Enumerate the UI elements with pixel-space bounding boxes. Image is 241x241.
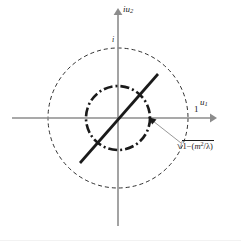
complex-plane-figure: iu2 u1 i 1 √1−(m2/λ) [0, 0, 241, 241]
y-axis-label-subscript: 2 [130, 7, 133, 14]
x-axis-label-subscript: 1 [205, 100, 208, 107]
radicand-paren-close: ) [210, 141, 213, 151]
y-axis-label-base: iu [123, 4, 130, 14]
figure-canvas [0, 0, 241, 241]
y-axis-label: iu2 [123, 5, 133, 15]
tick-label-imaginary-unit: i [112, 36, 114, 44]
x-axis-arrowhead [210, 114, 217, 123]
y-axis-arrowhead [114, 8, 123, 15]
radicand-group: 1−(m2/λ) [182, 140, 214, 151]
x-axis-label: u1 [200, 98, 208, 108]
inner-radius-annotation-label: √1−(m2/λ) [177, 141, 214, 151]
tick-label-unity: 1 [194, 105, 199, 114]
